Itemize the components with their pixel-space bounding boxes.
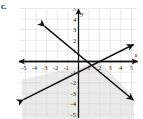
figure-root: c.	[0, 0, 143, 119]
y-tick: -1	[71, 69, 76, 76]
problem-label: c.	[1, 2, 7, 11]
y-tick: 1	[73, 47, 76, 54]
y-tick: 3	[73, 26, 76, 33]
y-tick: 5	[73, 8, 76, 12]
y-tick: -4	[71, 100, 77, 107]
x-tick: 2	[98, 64, 101, 71]
y-tick: -2	[71, 79, 76, 86]
x-tick: 1	[87, 64, 90, 71]
x-tick: -4	[32, 64, 38, 71]
x-axis-label: x	[134, 51, 138, 58]
x-tick: -2	[53, 64, 58, 71]
x-tick: -1	[63, 64, 68, 71]
y-axis-label: y	[80, 10, 84, 17]
x-tick: 5	[130, 64, 133, 71]
x-tick: -3	[42, 64, 47, 71]
y-tick: -3	[71, 90, 76, 97]
y-tick: 2	[73, 37, 76, 44]
x-tick: 3	[109, 64, 112, 71]
x-tick: -5	[21, 64, 26, 71]
coordinate-plane: x y -5 -4 -3 -2 -1 1 2 3 4 5 5 4 3 2	[16, 8, 141, 119]
y-tick: -5	[71, 111, 76, 118]
